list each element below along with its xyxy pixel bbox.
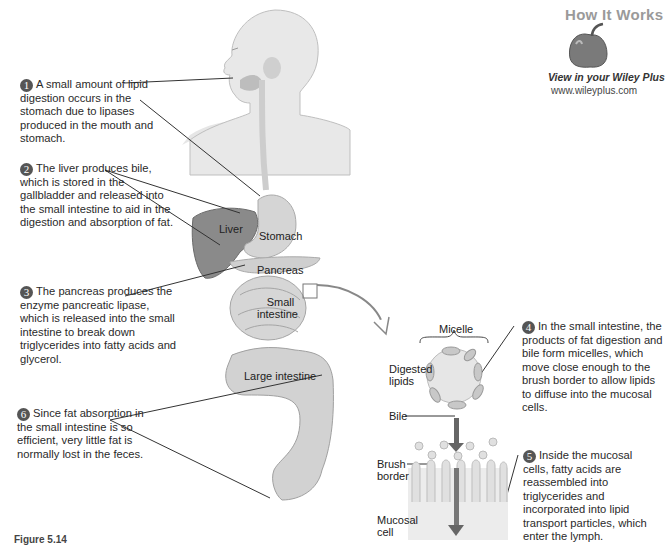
step-6-text: Since fat absorption in the small intest… [17,407,144,460]
pancreas-label: Pancreas [257,264,303,276]
step-5-note: 5Inside the mucosal cells, fatty acids a… [523,449,648,543]
step-2-note: 2The liver produces bile, which is store… [20,162,175,230]
digested-lipids-label: Digested lipids [389,363,432,387]
how-it-works-title: How It Works [565,6,663,23]
bile-label: Bile [389,410,407,422]
stomach-label: Stomach [259,230,302,242]
step-2-text: The liver produces bile, which is stored… [20,162,173,228]
small-intestine-label: Small intestine [263,296,298,320]
step-6-number-icon: 6 [17,408,30,421]
step-4-note: 4In the small intestine, the products of… [522,320,667,414]
step-3-note: 3The pancreas produces the enzyme pancre… [20,285,178,366]
step-3-number-icon: 3 [20,286,33,299]
step-1-number-icon: 1 [20,79,33,92]
step-1-note: 1A small amount of lipid digestion occur… [20,78,170,146]
wiley-plus-url[interactable]: www.wileyplus.com [551,85,637,96]
liver-label: Liver [219,223,243,235]
step-3-text: The pancreas produces the enzyme pancrea… [20,285,176,365]
micelle-icon [426,347,485,409]
micelle-label: Micelle [439,323,473,335]
step-1-text: A small amount of lipid digestion occurs… [20,78,153,144]
step-2-number-icon: 2 [20,163,33,176]
mucosal-cell-label: Mucosal cell [377,514,418,538]
step-6-note: 6Since fat absorption in the small intes… [17,407,145,461]
wiley-plus-link[interactable]: View in your Wiley Plus [548,71,665,83]
large-intestine-label: Large intestine [244,370,316,382]
brush-border-label: Brush border [377,458,409,482]
step-4-text: In the small intestine, the products of … [522,320,663,413]
step-5-number-icon: 5 [523,450,536,463]
step-4-number-icon: 4 [522,321,535,334]
step-5-text: Inside the mucosal cells, fatty acids ar… [523,449,647,542]
figure-caption: Figure 5.14 [14,534,67,545]
